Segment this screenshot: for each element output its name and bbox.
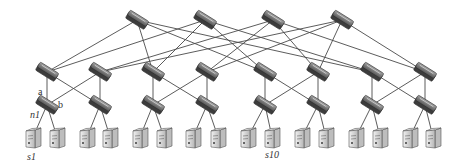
switch-icon-c2[interactable]: [193, 10, 217, 30]
server-icon-s10[interactable]: [265, 128, 280, 148]
server-icon-s4[interactable]: [103, 128, 118, 148]
label-s1: s1: [27, 151, 36, 162]
label-s10: s10: [265, 149, 279, 160]
server-icon-s5[interactable]: [133, 128, 148, 148]
server-icon-s9[interactable]: [241, 128, 256, 148]
link-c1-a7: [137, 20, 372, 72]
server-icon-s12[interactable]: [319, 128, 334, 148]
server-icon-s15[interactable]: [403, 128, 418, 148]
label-n1: n1: [30, 109, 40, 120]
server-icon-s1[interactable]: [26, 128, 41, 148]
switch-icon-c1[interactable]: [125, 10, 149, 30]
label-a: a: [38, 86, 43, 97]
server-icon-s11[interactable]: [295, 128, 310, 148]
fat-tree-diagram: abn1s1s10: [0, 0, 474, 163]
links-layer: [33, 20, 433, 137]
link-c4-a2: [100, 20, 342, 72]
server-icon-s7[interactable]: [186, 128, 201, 148]
link-c3-a4: [207, 20, 273, 72]
server-icon-s3[interactable]: [80, 128, 95, 148]
server-icon-s8[interactable]: [211, 128, 226, 148]
server-icon-s2[interactable]: [50, 128, 65, 148]
server-icon-s6[interactable]: [157, 128, 172, 148]
label-b: b: [58, 99, 63, 110]
link-c2-a3: [153, 20, 205, 72]
server-icon-s14[interactable]: [373, 128, 388, 148]
switch-icon-c4[interactable]: [330, 10, 354, 30]
link-c4-a8: [342, 20, 425, 72]
server-icon-s16[interactable]: [426, 128, 441, 148]
server-icon-s13[interactable]: [349, 128, 364, 148]
